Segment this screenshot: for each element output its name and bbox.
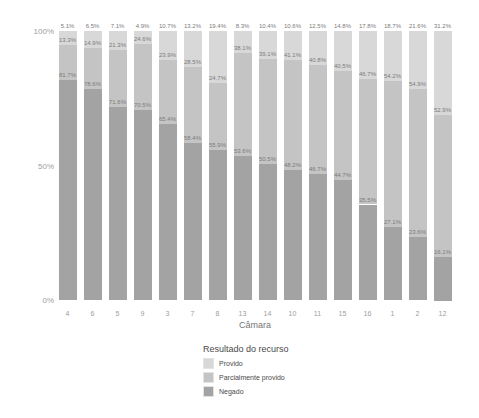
bar-camara-11: 12.5%40.8%46.7% <box>309 31 327 300</box>
bar-segment-provido <box>434 31 452 115</box>
segment-value-label: 48.2% <box>284 162 301 170</box>
segment-value-label: 24.7% <box>209 75 226 83</box>
segment-value-label: 21.3% <box>109 42 126 50</box>
x-axis-title: Câmara <box>55 320 455 330</box>
bar-segment-parcialmente-provido <box>284 60 302 171</box>
bar-camara-2: 21.6%54.9%23.6% <box>409 31 427 300</box>
bar-camara-6: 6.5%14.9%78.6% <box>84 31 102 300</box>
legend-swatch <box>203 372 214 383</box>
bar-segment-parcialmente-provido <box>259 59 277 164</box>
bar-camara-7: 13.2%28.5%58.4% <box>184 31 202 300</box>
legend-item-negado: Negado <box>203 386 289 397</box>
bar-segment-negado <box>334 180 352 300</box>
segment-value-label: 17.8% <box>359 23 376 31</box>
bar-segment-parcialmente-provido <box>334 71 352 180</box>
x-tick-label: 10 <box>289 310 297 317</box>
bar-camara-12: 31.2%52.9%16.1% <box>434 31 452 300</box>
segment-value-label: 18.7% <box>384 23 401 31</box>
legend-title: Resultado do recurso <box>203 344 289 354</box>
bar-segment-parcialmente-provido <box>409 89 427 237</box>
segment-value-label: 4.9% <box>136 23 150 31</box>
segment-value-label: 40.8% <box>309 57 326 65</box>
bar-segment-parcialmente-provido <box>309 65 327 175</box>
x-tick-label: 4 <box>66 310 70 317</box>
x-tick-label: 12 <box>439 310 447 317</box>
segment-value-label: 23.9% <box>159 52 176 60</box>
plot-area: 5.1%13.3%81.7%6.5%14.9%78.6%7.1%21.3%71.… <box>55 31 455 300</box>
bar-segment-parcialmente-provido <box>209 83 227 149</box>
segment-value-label: 78.6% <box>84 81 101 89</box>
segment-value-label: 58.4% <box>184 135 201 143</box>
bar-segment-negado <box>409 237 427 300</box>
bar-segment-negado <box>234 156 252 300</box>
bar-segment-negado <box>209 150 227 300</box>
bar-segment-negado <box>159 124 177 300</box>
bar-segment-parcialmente-provido <box>384 81 402 227</box>
segment-value-label: 16.1% <box>434 249 451 257</box>
bar-camara-5: 7.1%21.3%71.6% <box>109 31 127 300</box>
segment-value-label: 46.7% <box>359 71 376 79</box>
segment-value-label: 65.4% <box>159 116 176 124</box>
segment-value-label: 52.9% <box>434 107 451 115</box>
segment-value-label: 27.1% <box>384 219 401 227</box>
legend-label: Provido <box>219 360 243 367</box>
bar-segment-parcialmente-provido <box>134 44 152 110</box>
bar-camara-9: 4.9%24.6%70.5% <box>134 31 152 300</box>
segment-value-label: 10.7% <box>159 23 176 31</box>
legend: Resultado do recurso ProvidoParcialmente… <box>203 344 289 400</box>
bar-camara-10: 10.6%41.1%48.2% <box>284 31 302 300</box>
legend-swatch <box>203 386 214 397</box>
bar-segment-negado <box>359 205 377 300</box>
bar-segment-negado <box>284 170 302 300</box>
bar-camara-15: 14.8%40.5%44.7% <box>334 31 352 300</box>
x-tick-label: 11 <box>314 310 321 317</box>
segment-value-label: 50.5% <box>259 156 276 164</box>
x-tick-label: 9 <box>141 310 145 317</box>
x-tick-label: 15 <box>339 310 347 317</box>
x-tick-label: 1 <box>391 310 395 317</box>
x-tick-label: 8 <box>216 310 220 317</box>
legend-item-provido: Provido <box>203 358 289 369</box>
segment-value-label: 6.5% <box>86 23 100 31</box>
x-tick-label: 3 <box>166 310 170 317</box>
bar-segment-negado <box>309 174 327 300</box>
bar-camara-4: 5.1%13.3%81.7% <box>59 31 77 300</box>
segment-value-label: 14.8% <box>334 23 351 31</box>
x-tick-label: 2 <box>416 310 420 317</box>
bar-camara-1: 18.7%54.2%27.1% <box>384 31 402 300</box>
bar-segment-negado <box>184 143 202 300</box>
x-tick-label: 5 <box>116 310 120 317</box>
y-tick-label: 100% <box>14 27 54 36</box>
bar-segment-parcialmente-provido <box>184 67 202 144</box>
legend-item-parcialmente-provido: Parcialmente provido <box>203 372 289 383</box>
y-tick-label: 50% <box>14 161 54 170</box>
segment-value-label: 21.6% <box>409 23 426 31</box>
x-tick-label: 6 <box>91 310 95 317</box>
bar-segment-parcialmente-provido <box>434 115 452 257</box>
bar-segment-negado <box>84 89 102 300</box>
segment-value-label: 40.5% <box>334 63 351 71</box>
bar-camara-14: 10.4%39.1%50.5% <box>259 31 277 300</box>
segment-value-label: 12.5% <box>309 23 326 31</box>
bar-segment-negado <box>59 80 77 300</box>
x-tick-label: 13 <box>239 310 247 317</box>
x-tick-label: 16 <box>364 310 372 317</box>
x-tick-label: 14 <box>264 310 272 317</box>
segment-value-label: 31.2% <box>434 23 451 31</box>
segment-value-label: 55.9% <box>209 142 226 150</box>
segment-value-label: 8.3% <box>236 23 250 31</box>
segment-value-label: 44.7% <box>334 172 351 180</box>
y-tick-label: 0% <box>14 296 54 305</box>
legend-label: Negado <box>219 388 244 395</box>
segment-value-label: 10.6% <box>284 23 301 31</box>
segment-value-label: 7.1% <box>111 23 125 31</box>
bar-camara-13: 8.3%38.1%53.6% <box>234 31 252 300</box>
segment-value-label: 28.5% <box>184 59 201 67</box>
bar-segment-negado <box>134 110 152 300</box>
x-tick-label: 7 <box>191 310 195 317</box>
bar-segment-negado <box>434 257 452 300</box>
segment-value-label: 13.2% <box>184 23 201 31</box>
bar-segment-negado <box>259 164 277 300</box>
segment-value-label: 46.7% <box>309 166 326 174</box>
segment-value-label: 14.9% <box>84 40 101 48</box>
